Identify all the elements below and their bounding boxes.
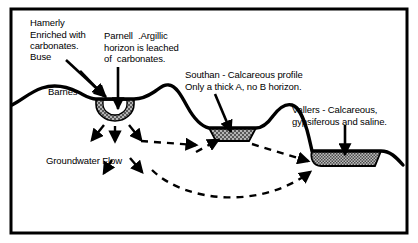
soil-body-southan: [209, 128, 256, 141]
label-parnell: Parnell .Argillic horizon is leached of …: [104, 30, 179, 65]
leader-arrow-buse: [80, 71, 104, 96]
label-hamerly: Hamerly Enriched with carbonates.: [30, 17, 86, 52]
groundwater-flow-arrows: [92, 125, 310, 197]
label-vallers: Vallers - Calcareous, gypsiferous and sa…: [292, 104, 387, 127]
label-barnes: Barnes: [48, 86, 78, 98]
soil-catena-diagram: Hamerly Enriched with carbonates. Buse B…: [0, 0, 418, 243]
label-groundwater-flow: Groundwater Flow: [46, 155, 122, 167]
label-southan: Southan - Calcareous profile Only a thic…: [185, 69, 303, 92]
label-buse: Buse: [30, 51, 51, 63]
soil-body-parnell: [96, 99, 134, 121]
